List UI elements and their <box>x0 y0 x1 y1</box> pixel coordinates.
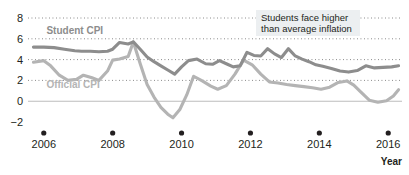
y-tick-2: 2 <box>17 74 23 86</box>
x-axis-title: Year <box>381 156 402 167</box>
x-tick-2016: 2016 <box>376 138 400 150</box>
x-tick-dot-2014 <box>317 130 322 135</box>
x-tick-2008: 2008 <box>100 138 124 150</box>
x-tick-dot-2006 <box>41 130 46 135</box>
x-tick-dot-2016 <box>386 130 391 135</box>
series-label-official-cpi: Official CPI <box>46 79 100 90</box>
series-line-student-cpi <box>33 42 398 74</box>
cropped-title-remnant <box>47 0 222 9</box>
x-tick-dot-2010 <box>179 130 184 135</box>
series-inline-labels: Official CPIStudent CPI <box>46 25 103 90</box>
x-tick-2012: 2012 <box>238 138 262 150</box>
cpi-line-chart: Students face higherthan average inflati… <box>0 0 409 175</box>
y-axis-tick-labels: 86420−2 <box>10 12 23 128</box>
annotation-line-2: than average inflation <box>261 23 352 34</box>
y-tick-8: 8 <box>17 12 23 24</box>
annotation-callout: Students face higherthan average inflati… <box>256 10 360 36</box>
x-tick-dot-2008 <box>110 130 115 135</box>
x-tick-2014: 2014 <box>307 138 331 150</box>
x-axis-tick-labels: 200620082010201220142016 <box>32 130 401 150</box>
x-axis-title-label: Year <box>381 156 402 167</box>
annotation-line-1: Students face higher <box>261 12 348 23</box>
y-tick-0: 0 <box>17 95 23 107</box>
chart-plot-area: Students face higherthan average inflati… <box>0 0 409 175</box>
y-tick-4: 4 <box>17 54 23 66</box>
x-tick-2006: 2006 <box>32 138 56 150</box>
y-tick--2: −2 <box>10 116 23 128</box>
x-tick-2010: 2010 <box>169 138 193 150</box>
series-label-student-cpi: Student CPI <box>46 25 103 36</box>
y-tick-6: 6 <box>17 33 23 45</box>
x-tick-dot-2012 <box>248 130 253 135</box>
